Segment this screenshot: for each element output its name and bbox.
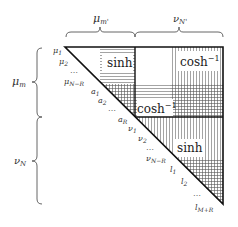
diag-label: l1 [170, 165, 176, 175]
block-label-top-left: sinh [107, 56, 133, 70]
top-brace-nu-label: νN' [173, 13, 187, 26]
top-brace-mu-label: μm' [93, 12, 109, 26]
matrix-diagram: sinh cosh−1 cosh−1 sinh μm' νN' μm νN μ1… [0, 0, 238, 227]
left-brace-mu-label: μm [12, 75, 26, 89]
diag-label: a2 [98, 96, 107, 106]
diag-label: ν1 [128, 124, 137, 134]
diag-label: μ2 [59, 57, 68, 67]
block-bottom-right-grid [135, 160, 223, 204]
diag-label: … [70, 66, 78, 75]
diag-label: … [108, 104, 116, 113]
left-brace-nu [32, 117, 42, 204]
diag-label: aR [118, 115, 128, 125]
block-label-bottom-right: sinh [177, 141, 203, 155]
left-brace-nu-label: νN [14, 155, 27, 168]
left-brace-mu [32, 48, 42, 117]
diag-label: μN−R [64, 77, 84, 87]
diag-label: l2 [181, 177, 188, 187]
diag-label: … [193, 189, 201, 198]
diag-label: … [146, 143, 154, 152]
block-top-right-grid [170, 84, 223, 117]
diag-label: νN−R [146, 154, 166, 164]
diag-label: lM+R [195, 203, 214, 213]
diag-label: μ1 [53, 46, 62, 56]
top-brace-mu [66, 27, 135, 37]
top-brace-nu [135, 27, 223, 37]
